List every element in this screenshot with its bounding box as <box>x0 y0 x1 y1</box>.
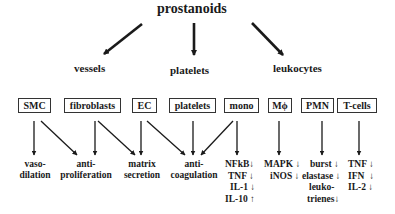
pmn-effect: burst ↓ <box>306 159 340 171</box>
arrow-smc-antiproliferation <box>41 121 77 155</box>
tcell-effect: IL-2 ↓ <box>348 182 374 194</box>
mono-effects-list: NFkB↓ TNF ↓ IL-1 ↓ IL-10 ↑ <box>225 159 255 205</box>
effect-matrix-secretion: matrix secretion <box>119 159 165 181</box>
macrophage-effect: MAPK ↓ <box>264 159 300 171</box>
arrow-to-vessels <box>104 24 142 54</box>
macrophage-effects-list: MAPK ↓ iNOS ↓ <box>264 159 300 182</box>
mono-effect: NFkB↓ <box>225 159 255 171</box>
macrophage-effect: iNOS ↓ <box>264 171 300 183</box>
cell-box-fibroblasts: fibroblasts <box>64 98 121 113</box>
cell-box-macrophage: Mϕ <box>268 98 292 113</box>
effect-antiproliferation: anti- proliferation <box>58 159 114 181</box>
mono-effect: IL-1 ↓ <box>225 182 255 194</box>
arrow-to-leukocytes <box>252 23 283 55</box>
pmn-effects-list: burst ↓ elastase ↓ leuko- trienes↓ <box>306 159 340 205</box>
cell-box-smc: SMC <box>18 98 51 113</box>
pmn-effect: leuko- <box>306 182 340 194</box>
tcell-effects-list: TNF ↓ IFN ↓ IL-2 ↓ <box>348 159 374 194</box>
cell-box-mono: mono <box>224 98 259 113</box>
mono-effect: IL-10 ↑ <box>225 194 255 206</box>
effect-vasodilation: vaso- dilation <box>14 159 56 181</box>
category-leukocytes: leukocytes <box>273 62 322 74</box>
category-platelets: platelets <box>170 64 209 76</box>
pmn-effect: elastase ↓ <box>302 171 340 183</box>
arrow-mono-anticoagulation <box>201 121 233 155</box>
arrow-fibroblasts-matrix <box>98 121 135 155</box>
arrow-ec-anticoagulation <box>147 121 185 155</box>
tcell-effect: TNF ↓ <box>348 159 374 171</box>
root-label: prostanoids <box>157 1 227 17</box>
effect-anticoagulation: anti- coagulation <box>167 159 221 181</box>
cell-box-tcells: T-cells <box>337 98 377 113</box>
cell-box-platelets: platelets <box>169 98 216 113</box>
pmn-effect: trienes↓ <box>306 194 340 206</box>
category-vessels: vessels <box>74 62 105 74</box>
cell-box-pmn: PMN <box>301 98 334 113</box>
tcell-effect: IFN ↓ <box>348 171 374 183</box>
cell-box-ec: EC <box>132 98 157 113</box>
mono-effect: TNF ↓ <box>225 171 255 183</box>
